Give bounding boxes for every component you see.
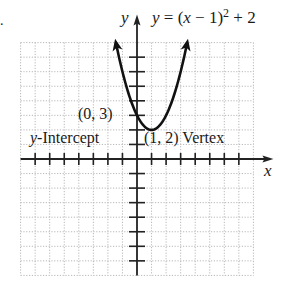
intercept-point-label: (0, 3) <box>78 105 113 123</box>
parabola-curve <box>116 43 187 130</box>
item-marker: . <box>0 13 4 28</box>
curve-arrows <box>113 39 191 52</box>
x-axis-label: x <box>263 161 272 180</box>
intercept-label: y-Intercept <box>28 129 100 147</box>
y-axis-label: y <box>119 8 129 27</box>
graph-canvas: y x y = (x − 1)2 + 2 (0, 3) y-Intercept … <box>0 0 288 295</box>
equation-label: y = (x − 1)2 + 2 <box>150 6 256 27</box>
vertex-label: (1, 2) Vertex <box>144 129 224 147</box>
